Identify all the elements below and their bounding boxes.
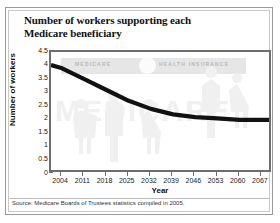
x-axis-tick	[149, 172, 150, 176]
x-axis-tick-label: 2067	[248, 177, 272, 184]
y-axis-tick-label: 3.5	[32, 74, 48, 81]
x-axis-tick	[60, 172, 61, 176]
x-axis-tick	[171, 172, 172, 176]
x-axis-tick	[260, 172, 261, 176]
x-axis-tick-label: 2004	[48, 177, 72, 184]
source-divider	[9, 198, 269, 199]
x-axis-tick-label: 2032	[137, 177, 161, 184]
x-axis-tick-label: 2039	[159, 177, 183, 184]
x-axis-tick	[238, 172, 239, 176]
x-axis-tick-label: 2060	[226, 177, 250, 184]
chart-plot-area: 00.511.522.533.544.5 Number of workers M…	[0, 0, 280, 223]
y-axis-tick-label: 2.5	[32, 101, 48, 108]
x-axis-tick	[216, 172, 217, 176]
x-axis-tick	[193, 172, 194, 176]
x-axis-tick-label: 2018	[93, 177, 117, 184]
x-axis-tick-label: 2053	[204, 177, 228, 184]
y-axis-tick-label: 4.5	[32, 47, 48, 54]
y-axis-tick-label: 2	[32, 114, 48, 121]
x-axis-tick-label: 2011	[70, 177, 94, 184]
x-axis-tick	[127, 172, 128, 176]
x-axis-tick	[82, 172, 83, 176]
x-axis-tick-label: 2046	[181, 177, 205, 184]
x-axis-tick	[105, 172, 106, 176]
y-axis-tick	[49, 172, 53, 173]
y-axis-tick-label: 3	[32, 87, 48, 94]
data-line	[51, 52, 271, 172]
y-axis-tick-label: 4	[32, 60, 48, 67]
x-axis-tick-label: 2025	[115, 177, 139, 184]
y-axis-tick-label: 1	[32, 141, 48, 148]
y-axis-tick-labels: 00.511.522.533.544.5	[31, 46, 48, 176]
y-axis-tick-label: 0	[32, 169, 48, 176]
source-note: Source: Medicare Boards of Trustees stat…	[12, 200, 268, 206]
y-axis-tick-label: 0.5	[32, 155, 48, 162]
x-axis-title: Year	[49, 186, 271, 195]
y-axis-title: Number of workers	[8, 50, 17, 130]
y-axis-tick-label: 1.5	[32, 128, 48, 135]
plot-box: MEDICARE HEALTH INSURANCE MEDICARE	[49, 50, 271, 172]
